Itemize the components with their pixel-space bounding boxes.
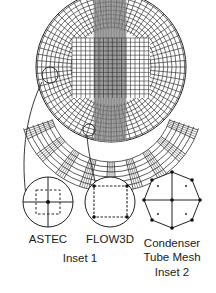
inset-condenser-tube-mesh: [142, 170, 202, 230]
main-mesh-circle: [36, 0, 186, 150]
condenser-mesh-figure: ASTEC FLOW3D Inset 1 Condenser Tube Mesh…: [0, 0, 216, 293]
inset-flow3d: [85, 177, 135, 227]
label-astec: ASTEC: [29, 233, 67, 245]
label-flow3d: FLOW3D: [86, 233, 134, 245]
inset-astec: [23, 177, 73, 227]
caption-inset-1: Inset 1: [63, 252, 98, 264]
label-condenser-line-1: Condenser: [144, 237, 200, 249]
caption-inset-2: Inset 2: [155, 266, 190, 278]
label-condenser-line-2: Tube Mesh: [143, 251, 200, 263]
